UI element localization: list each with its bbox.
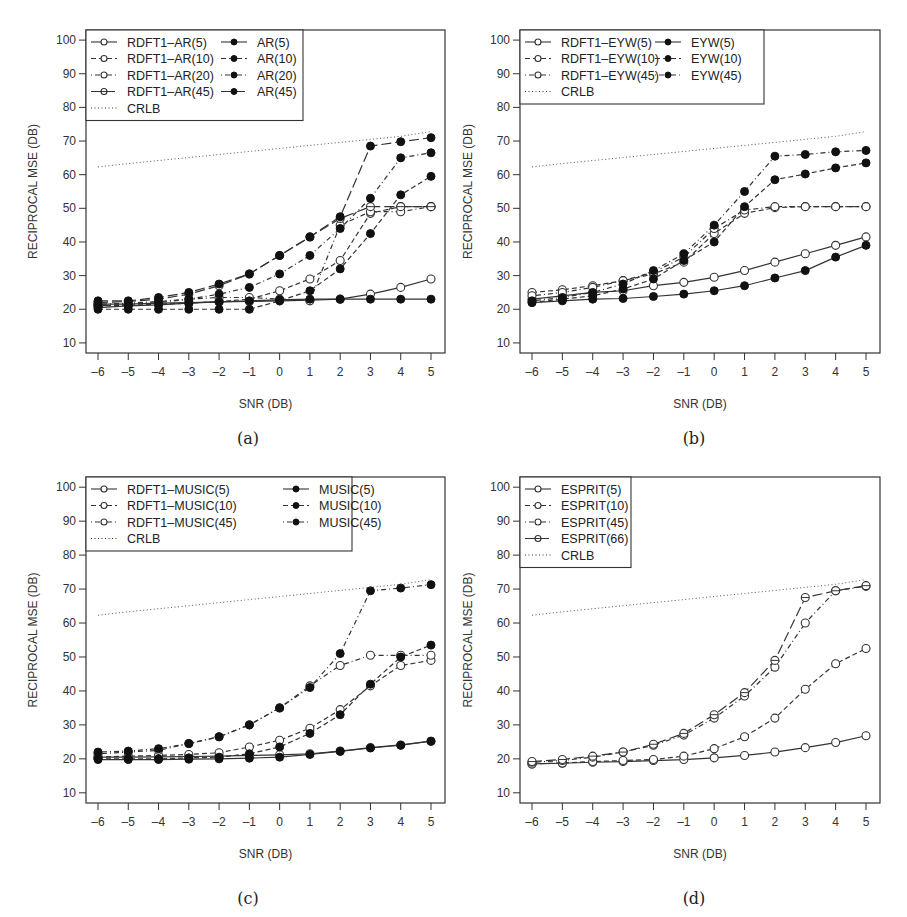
x-tick-label: –1 [677,815,691,829]
filled-circle-marker-icon [215,290,223,298]
filled-circle-marker-icon [771,152,779,160]
series-esprit-5- [528,732,870,768]
filled-circle-marker-icon [801,170,809,178]
x-axis-label: SNR (DB) [239,847,292,861]
x-tick-label: –1 [243,365,257,379]
filled-circle-marker-icon [336,711,344,719]
x-tick-label: –2 [212,365,226,379]
x-tick-label: 3 [802,365,809,379]
y-tick-label: 30 [497,269,511,283]
filled-circle-marker-icon [427,134,435,142]
filled-circle-marker-icon [336,265,344,273]
filled-circle-marker-icon [397,295,405,303]
x-tick-label: –5 [556,365,570,379]
y-tick-label: 40 [497,235,511,249]
x-tick-label: –3 [616,365,630,379]
open-circle-marker-icon [771,714,779,722]
legend-label: RDFT1–AR(20) [127,69,214,83]
open-circle-marker-icon [535,486,541,492]
filled-circle-marker-icon [231,56,237,62]
x-tick-label: –6 [525,365,539,379]
filled-circle-marker-icon [185,740,193,748]
series-ar-20- [94,149,435,310]
chart-a-plot: 102030405060708090100–6–5–4–3–2–1012345S… [0,0,453,458]
chart-b-plot: 102030405060708090100–6–5–4–3–2–1012345S… [454,0,907,458]
x-tick-label: 5 [428,815,435,829]
open-circle-marker-icon [101,39,107,45]
open-circle-marker-icon [801,744,809,752]
filled-circle-marker-icon [245,297,253,305]
open-circle-marker-icon [336,256,344,264]
filled-circle-marker-icon [94,748,102,756]
filled-circle-marker-icon [558,293,566,301]
legend-label: RDFT1–AR(5) [127,36,207,50]
open-circle-marker-icon [101,519,107,525]
y-tick-label: 30 [63,718,77,732]
filled-circle-marker-icon [306,295,314,303]
open-circle-marker-icon [101,486,107,492]
series-rdft1-ar-5- [94,275,435,308]
filled-circle-marker-icon [649,292,657,300]
filled-circle-marker-icon [306,729,314,737]
filled-circle-marker-icon [665,39,671,45]
y-tick-label: 10 [63,786,77,800]
series-music-45- [94,581,435,756]
filled-circle-marker-icon [665,72,671,78]
x-tick-label: –6 [91,815,105,829]
x-tick-label: 1 [307,815,314,829]
filled-circle-marker-icon [862,146,870,154]
open-circle-marker-icon [862,203,870,211]
legend: RDFT1–MUSIC(5)RDFT1–MUSIC(10)RDFT1–MUSIC… [86,477,382,551]
filled-circle-marker-icon [397,741,405,749]
x-tick-label: –2 [212,815,226,829]
legend-label: MUSIC(45) [319,516,382,530]
y-tick-label: 20 [63,302,77,316]
open-circle-marker-icon [535,519,541,525]
chart-panel-b: 102030405060708090100–6–5–4–3–2–1012345S… [454,0,907,458]
y-tick-label: 90 [63,67,77,81]
legend-label: RDFT1–EYW(5) [561,36,652,50]
filled-circle-marker-icon [397,154,405,162]
filled-circle-marker-icon [306,233,314,241]
series-crlb [532,580,866,616]
filled-circle-marker-icon [649,275,657,283]
filled-circle-marker-icon [293,486,299,492]
filled-circle-marker-icon [710,287,718,295]
filled-circle-marker-icon [245,270,253,278]
x-tick-label: –4 [152,815,166,829]
open-circle-marker-icon [862,233,870,241]
chart-a-caption: (a) [218,429,278,448]
filled-circle-marker-icon [366,194,374,202]
series-music-10- [94,641,435,763]
x-tick-label: 4 [832,815,839,829]
filled-circle-marker-icon [336,650,344,658]
y-tick-label: 10 [497,786,511,800]
filled-circle-marker-icon [293,519,299,525]
y-tick-label: 70 [63,582,77,596]
y-tick-label: 50 [63,650,77,664]
open-circle-marker-icon [680,278,688,286]
filled-circle-marker-icon [771,274,779,282]
series-rdft1-music-45- [94,651,435,757]
filled-circle-marker-icon [366,295,374,303]
x-tick-label: 5 [428,365,435,379]
filled-circle-marker-icon [215,305,223,313]
legend-label: EYW(5) [691,36,735,50]
legend-label: ESPRIT(45) [561,516,628,530]
y-tick-label: 30 [63,269,77,283]
legend-label: RDFT1–AR(10) [127,52,214,66]
x-axis-label: SNR (DB) [673,847,726,861]
x-tick-label: –2 [647,365,661,379]
series-ar-45- [94,134,435,305]
x-tick-label: 4 [397,815,404,829]
legend-label: CRLB [127,532,160,546]
filled-circle-marker-icon [665,56,671,62]
x-tick-label: –4 [586,365,600,379]
open-circle-marker-icon [427,651,435,659]
open-circle-marker-icon [741,733,749,741]
x-tick-label: 1 [741,365,748,379]
legend: RDFT1–AR(5)RDFT1–AR(10)RDFT1–AR(20)RDFT1… [86,30,303,121]
filled-circle-marker-icon [245,750,253,758]
legend-label: RDFT1–MUSIC(5) [127,483,230,497]
series-esprit-10- [528,644,870,767]
